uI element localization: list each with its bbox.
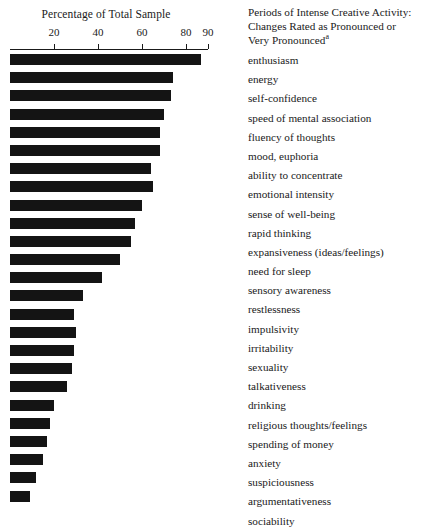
- category-label: suspiciousness: [248, 474, 424, 493]
- category-label: rapid thinking: [248, 225, 424, 244]
- x-tick-mark: [208, 44, 209, 49]
- bar: [10, 345, 74, 356]
- x-tick-label: 40: [93, 26, 104, 38]
- bar-row: [0, 470, 218, 488]
- bar-row: [0, 252, 218, 270]
- bar-row: [0, 343, 218, 361]
- chart-panel: Percentage of Total Sample 2040608090: [0, 0, 218, 510]
- header-line-2: Changes Rated as Pronounced or: [248, 20, 396, 32]
- category-label: emotional intensity: [248, 186, 424, 205]
- bar-row: [0, 489, 218, 507]
- bar-group: [0, 52, 218, 507]
- x-axis: 2040608090: [0, 26, 218, 52]
- bar: [10, 127, 160, 138]
- bar: [10, 400, 54, 411]
- bar: [10, 363, 72, 374]
- category-label: mood, euphoria: [248, 148, 424, 167]
- bar-row: [0, 88, 218, 106]
- bar-row: [0, 52, 218, 70]
- bar: [10, 218, 135, 229]
- category-label: expansiveness (ideas/feelings): [248, 244, 424, 263]
- bar-row: [0, 307, 218, 325]
- bar: [10, 200, 142, 211]
- bar: [10, 309, 74, 320]
- category-label: enthusiasm: [248, 52, 424, 71]
- bar-row: [0, 434, 218, 452]
- bar-row: [0, 379, 218, 397]
- x-tick-mark: [142, 44, 143, 49]
- category-label-group: enthusiasmenergyself-confidencespeed of …: [248, 52, 424, 531]
- category-label: irritability: [248, 340, 424, 359]
- category-label: drinking: [248, 397, 424, 416]
- bar: [10, 472, 36, 483]
- x-tick-label: 80: [181, 26, 192, 38]
- bar-row: [0, 216, 218, 234]
- bar-row: [0, 452, 218, 470]
- category-label: religious thoughts/feelings: [248, 417, 424, 436]
- category-label: fluency of thoughts: [248, 129, 424, 148]
- axis-line: [10, 49, 208, 50]
- label-column-header: Periods of Intense Creative Activity: Ch…: [248, 5, 424, 48]
- bar: [10, 290, 83, 301]
- category-label: sexuality: [248, 359, 424, 378]
- category-label: talkativeness: [248, 378, 424, 397]
- category-label: sensory awareness: [248, 282, 424, 301]
- x-tick-mark: [98, 44, 99, 49]
- bar: [10, 491, 30, 502]
- category-label: need for sleep: [248, 263, 424, 282]
- bar-row: [0, 416, 218, 434]
- bar: [10, 418, 50, 429]
- category-label: sense of well-being: [248, 206, 424, 225]
- x-tick-label: 90: [203, 26, 214, 38]
- x-tick-mark: [186, 44, 187, 49]
- category-label: energy: [248, 71, 424, 90]
- bar: [10, 145, 160, 156]
- bar: [10, 272, 102, 283]
- bar-row: [0, 70, 218, 88]
- category-label: impulsivity: [248, 321, 424, 340]
- category-label: self-confidence: [248, 90, 424, 109]
- x-tick-label: 60: [137, 26, 148, 38]
- bar-row: [0, 234, 218, 252]
- bar: [10, 327, 76, 338]
- bar-row: [0, 398, 218, 416]
- label-panel: Periods of Intense Creative Activity: Ch…: [218, 0, 424, 510]
- bar-row: [0, 198, 218, 216]
- category-label: speed of mental association: [248, 110, 424, 129]
- category-label: restlessness: [248, 301, 424, 320]
- bar: [10, 72, 173, 83]
- bar: [10, 236, 131, 247]
- chart-title: Percentage of Total Sample: [0, 8, 212, 20]
- header-footnote-marker: a: [325, 33, 329, 42]
- bar-row: [0, 125, 218, 143]
- bar-row: [0, 361, 218, 379]
- bar-row: [0, 288, 218, 306]
- header-line-1: Periods of Intense Creative Activity:: [248, 6, 411, 18]
- category-label: spending of money: [248, 436, 424, 455]
- bar-row: [0, 143, 218, 161]
- bar: [10, 181, 153, 192]
- x-tick-label: 20: [49, 26, 60, 38]
- bar: [10, 436, 47, 447]
- bar: [10, 109, 164, 120]
- bar: [10, 254, 120, 265]
- bar-row: [0, 161, 218, 179]
- category-label: anxiety: [248, 455, 424, 474]
- category-label: sociability: [248, 513, 424, 531]
- x-tick-mark: [54, 44, 55, 49]
- bar: [10, 54, 201, 65]
- bar: [10, 454, 43, 465]
- category-label: ability to concentrate: [248, 167, 424, 186]
- bar-row: [0, 179, 218, 197]
- bar: [10, 90, 171, 101]
- category-label: argumentativeness: [248, 493, 424, 512]
- bar-row: [0, 107, 218, 125]
- bar: [10, 381, 67, 392]
- bar: [10, 163, 151, 174]
- bar-row: [0, 325, 218, 343]
- bar-row: [0, 270, 218, 288]
- header-line-3: Very Pronounced: [248, 34, 325, 46]
